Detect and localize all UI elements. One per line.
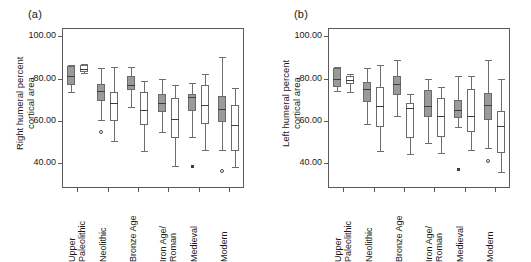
box-iqr	[231, 105, 239, 151]
median-line	[127, 85, 135, 86]
cap-lower	[438, 153, 445, 154]
panel-a-xtick-mark	[168, 188, 169, 192]
whisker-lower	[380, 127, 381, 151]
panel-b-xtick-label: Modern	[485, 196, 507, 262]
cap-lower	[407, 154, 414, 155]
whisker-lower	[410, 138, 411, 154]
panel-b-xtick-mark	[495, 188, 496, 192]
cap-upper	[485, 60, 492, 61]
whisker-upper	[192, 83, 193, 94]
median-line	[201, 105, 209, 106]
box-iqr	[393, 76, 401, 95]
panel-a-xtick-label: Modern	[219, 196, 241, 262]
median-line	[484, 105, 492, 106]
panel-a: (a) Right humeral percent cortical area …	[0, 0, 265, 261]
whisker-upper	[162, 79, 163, 95]
whisker-upper	[397, 60, 398, 77]
median-line	[158, 103, 166, 104]
cap-lower	[202, 150, 209, 151]
panel-b-ytick-mark	[324, 121, 328, 122]
outlier-marker	[457, 168, 460, 171]
panel-b-xtick-mark	[343, 188, 344, 192]
panel-b-xtick-label: Neolithic	[364, 196, 386, 262]
whisker-upper	[175, 85, 176, 98]
median-line	[218, 109, 226, 110]
cap-lower	[81, 73, 88, 74]
whisker-lower	[222, 122, 223, 150]
cap-lower	[455, 127, 462, 128]
panel-a-ytick-mark	[58, 36, 62, 37]
panel-b-ytick-mark	[324, 36, 328, 37]
whisker-upper	[380, 65, 381, 87]
median-line	[406, 108, 414, 109]
median-line	[424, 106, 432, 107]
cap-upper	[202, 74, 209, 75]
whisker-lower	[501, 153, 502, 172]
cap-upper	[468, 76, 475, 77]
cap-lower	[172, 166, 179, 167]
outlier-marker	[191, 165, 194, 168]
cap-upper	[172, 85, 179, 86]
whisker-lower	[114, 121, 115, 141]
cap-lower	[347, 92, 354, 93]
whisker-upper	[428, 79, 429, 90]
box-iqr	[97, 84, 105, 101]
median-line	[437, 116, 445, 117]
median-line	[80, 69, 88, 70]
whisker-lower	[488, 120, 489, 148]
median-line	[171, 119, 179, 120]
panel-b-ytick-label: 100.00	[284, 30, 322, 40]
median-line	[97, 91, 105, 92]
cap-upper	[219, 57, 226, 58]
cap-lower	[377, 151, 384, 152]
cap-upper	[159, 79, 166, 80]
cap-lower	[394, 116, 401, 117]
cap-upper	[111, 67, 118, 68]
cap-lower	[128, 107, 135, 108]
panel-a-ytick-label: 40.00	[18, 157, 56, 167]
whisker-upper	[488, 60, 489, 93]
cap-upper	[407, 94, 414, 95]
cap-upper	[438, 87, 445, 88]
panel-a-y-axis-label: Right humeral percent cortical area	[14, 36, 36, 171]
whisker-lower	[235, 151, 236, 167]
box-iqr	[110, 92, 118, 121]
whisker-lower	[441, 137, 442, 153]
whisker-lower	[471, 132, 472, 150]
outlier-marker	[486, 159, 490, 163]
panel-b-xtick-mark	[465, 188, 466, 192]
panel-b-tag: (b)	[294, 8, 308, 20]
cap-lower	[159, 132, 166, 133]
panel-b-y-axis-label: Left humeral percent cortical area	[280, 36, 302, 171]
cap-upper	[232, 88, 239, 89]
median-line	[333, 79, 341, 80]
median-line	[363, 89, 371, 90]
median-line	[231, 125, 239, 126]
cap-lower	[219, 150, 226, 151]
median-line	[346, 80, 354, 81]
cap-lower	[111, 141, 118, 142]
box-iqr	[424, 90, 432, 117]
panel-a-xtick-mark	[199, 188, 200, 192]
whisker-lower	[428, 117, 429, 143]
whisker-upper	[458, 76, 459, 100]
panel-a-xtick-label: Upper Paleolithic	[67, 196, 89, 262]
cap-upper	[128, 67, 135, 68]
cap-lower	[189, 137, 196, 138]
whisker-lower	[350, 84, 351, 92]
panel-a-ytick-mark	[58, 163, 62, 164]
cap-upper	[98, 68, 105, 69]
median-line	[454, 110, 462, 111]
cap-upper	[394, 60, 401, 61]
cap-upper	[364, 68, 371, 69]
whisker-lower	[101, 101, 102, 120]
panel-a-xtick-mark	[108, 188, 109, 192]
cap-lower	[98, 120, 105, 121]
cap-lower	[364, 124, 371, 125]
panel-b-ytick-label: 80.00	[284, 73, 322, 83]
cap-upper	[498, 79, 505, 80]
cap-upper	[455, 76, 462, 77]
whisker-upper	[367, 68, 368, 82]
cap-upper	[377, 65, 384, 66]
